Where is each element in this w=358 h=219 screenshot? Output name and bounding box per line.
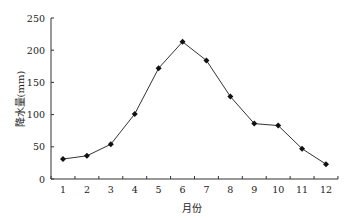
x-tick-label: 3 bbox=[108, 184, 114, 195]
x-tick-label: 12 bbox=[320, 184, 332, 195]
x-tick-label: 10 bbox=[272, 184, 284, 195]
data-point-marker bbox=[84, 153, 90, 159]
y-tick-label: 200 bbox=[27, 45, 45, 56]
x-tick-label: 1 bbox=[60, 184, 66, 195]
x-tick-label: 8 bbox=[227, 184, 233, 195]
x-tick-label: 4 bbox=[132, 184, 138, 195]
x-tick-label: 11 bbox=[296, 184, 308, 195]
data-line bbox=[63, 42, 326, 164]
y-tick-label: 150 bbox=[27, 77, 45, 88]
y-tick-label: 0 bbox=[39, 174, 45, 185]
y-tick-label: 250 bbox=[27, 13, 45, 24]
precipitation-line-chart: 050100150200250 123456789101112 降水量(mm) … bbox=[0, 0, 358, 219]
axes bbox=[51, 18, 338, 179]
y-tick-label: 50 bbox=[33, 141, 45, 152]
x-tick-label: 2 bbox=[84, 184, 90, 195]
x-tick-label: 6 bbox=[180, 184, 186, 195]
y-tick-label: 100 bbox=[27, 109, 45, 120]
x-tick-label: 9 bbox=[251, 184, 257, 195]
x-axis-label: 月份 bbox=[182, 203, 202, 214]
data-markers bbox=[60, 39, 329, 167]
data-point-marker bbox=[60, 156, 66, 162]
x-tick-label: 5 bbox=[156, 184, 162, 195]
data-point-marker bbox=[323, 161, 329, 167]
y-axis-ticks: 050100150200250 bbox=[27, 13, 54, 185]
x-tick-label: 7 bbox=[203, 184, 209, 195]
y-axis-label: 降水量(mm) bbox=[14, 71, 26, 128]
